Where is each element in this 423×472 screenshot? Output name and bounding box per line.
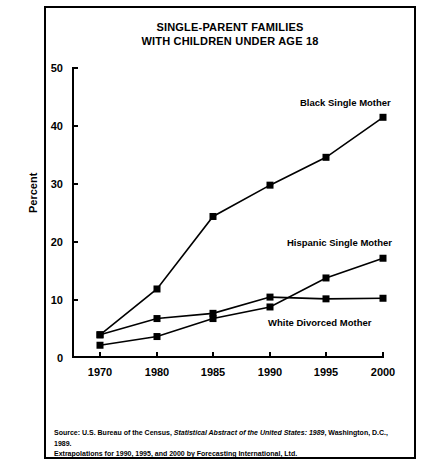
data-point-marker [380,114,387,121]
data-point-marker [323,274,330,281]
series-render-group [97,114,387,349]
data-point-marker [267,294,274,301]
series-line-2 [100,297,383,335]
source-prefix: Source: [54,429,80,436]
series-label-white-divorced-mother: White Divorced Mother [268,317,371,328]
data-point-marker [210,310,217,317]
series-line-0 [100,117,383,334]
series-label-black-single-mother: Black Single Mother [300,97,391,108]
data-point-marker [323,295,330,302]
data-point-marker [97,331,104,338]
series-layer [0,0,423,472]
data-point-marker [380,255,387,262]
data-point-marker [154,285,161,292]
data-point-marker [97,342,104,349]
data-point-marker [267,303,274,310]
chart-figure: SINGLE-PARENT FAMILIES WITH CHILDREN UND… [0,0,423,472]
data-point-marker [323,154,330,161]
data-point-marker [267,182,274,189]
data-point-marker [380,295,387,302]
series-line-1 [100,258,383,345]
series-label-hispanic-single-mother: Hispanic Single Mother [287,237,392,248]
data-point-marker [210,213,217,220]
source-text-before-italic: U.S. Bureau of the Census, [80,429,174,436]
source-note: Source: U.S. Bureau of the Census, Stati… [54,428,406,460]
data-point-marker [154,315,161,322]
data-point-marker [154,333,161,340]
source-note-line-2: Extrapolations for 1990, 1995, and 2000 … [54,449,406,460]
plot-area: 50 40 30 20 10 0 1970 1980 1985 1990 199… [72,68,383,358]
source-publication-title: Statistical Abstract of the United State… [174,429,325,436]
